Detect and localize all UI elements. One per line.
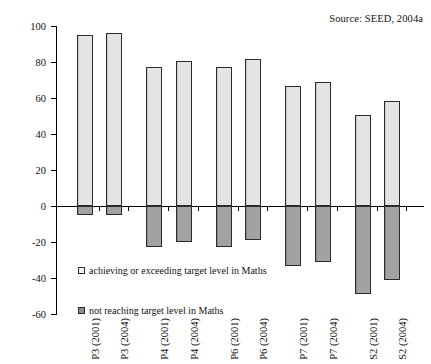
y-axis-tick-mark: [51, 170, 57, 171]
y-axis-tick-mark: [51, 206, 57, 207]
legend-item: not reaching target level in Maths: [78, 305, 224, 316]
bar-positive: [216, 67, 232, 207]
x-axis-category-label: P4 (2004): [189, 318, 200, 360]
x-axis-tick-mark: [198, 206, 199, 211]
y-axis-tick-label: 60: [0, 93, 46, 104]
x-axis-category-label: P7 (2001): [298, 318, 309, 360]
bar-negative: [77, 206, 93, 215]
y-axis-tick-label: -40: [0, 273, 46, 284]
y-axis-tick-label: 80: [0, 57, 46, 68]
y-axis-tick-mark: [51, 98, 57, 99]
bar-positive: [315, 82, 331, 206]
y-axis-tick-mark: [51, 242, 57, 243]
x-axis-tick-mark: [267, 206, 268, 211]
legend-item: achieving or exceeding target level in M…: [78, 265, 267, 276]
x-axis-category-label: S2 (2001): [368, 318, 379, 360]
y-axis-tick-mark: [51, 278, 57, 279]
bar-positive: [77, 35, 93, 206]
bar-positive: [146, 67, 162, 206]
x-axis-tick-mark: [128, 206, 129, 211]
bar-negative: [106, 206, 122, 215]
y-axis-tick-label: 0: [0, 201, 46, 212]
x-axis-tick-mark: [238, 206, 239, 211]
bar-negative: [146, 206, 162, 247]
plot-area: 100806040200-20-40-60P3 (2001)P3 (2004)P…: [56, 26, 422, 314]
legend-swatch-icon: [78, 307, 85, 314]
bar-negative: [384, 206, 400, 280]
x-axis-category-label: P6 (2004): [258, 318, 269, 360]
bar-negative: [285, 206, 301, 266]
x-axis-tick-mark: [307, 206, 308, 211]
y-axis-tick-mark: [51, 314, 57, 315]
x-axis-tick-mark: [99, 206, 100, 211]
bar-negative: [176, 206, 192, 242]
y-axis-tick-mark: [51, 62, 57, 63]
y-axis-tick-label: 40: [0, 129, 46, 140]
x-axis-tick-mark: [406, 206, 407, 211]
bar-positive: [176, 61, 192, 206]
x-axis-category-label: P3 (2004): [119, 318, 130, 360]
x-axis-tick-mark: [337, 206, 338, 211]
legend-swatch-icon: [78, 267, 85, 274]
bar-negative: [315, 206, 331, 262]
bar-positive: [355, 115, 371, 206]
x-axis-category-label: P4 (2001): [159, 318, 170, 360]
y-axis-tick-label: -20: [0, 237, 46, 248]
bar-negative: [216, 206, 232, 247]
y-axis-tick-label: 100: [0, 21, 46, 32]
x-axis-category-label: P6 (2001): [229, 318, 240, 360]
x-axis-category-label: S2 (2004): [397, 318, 408, 360]
y-axis-tick-mark: [51, 134, 57, 135]
bar-negative: [355, 206, 371, 294]
legend-label: not reaching target level in Maths: [89, 305, 224, 316]
bar-positive: [384, 101, 400, 206]
y-axis-tick-label: 20: [0, 165, 46, 176]
bar-positive: [245, 59, 261, 206]
y-axis-tick-mark: [51, 26, 57, 27]
bar-positive: [106, 33, 122, 206]
y-axis-tick-label: -60: [0, 309, 46, 320]
x-axis-tick-mark: [377, 206, 378, 211]
bar-positive: [285, 86, 301, 206]
x-axis-tick-mark: [168, 206, 169, 211]
legend-label: achieving or exceeding target level in M…: [89, 265, 267, 276]
chart-container: Source: SEED, 2004a 100806040200-20-40-6…: [0, 0, 431, 364]
source-annotation: Source: SEED, 2004a: [329, 13, 423, 24]
x-axis-category-label: P7 (2004): [328, 318, 339, 360]
x-axis-category-label: P3 (2001): [90, 318, 101, 360]
bar-negative: [245, 206, 261, 240]
